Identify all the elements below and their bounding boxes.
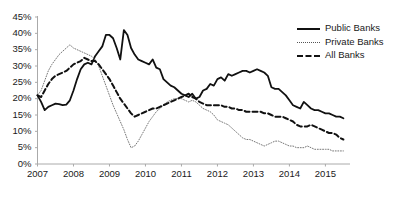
x-axis-tick-label: 2013 [236, 169, 270, 179]
x-axis-tick-label: 2009 [92, 169, 126, 179]
series-line-all-banks [38, 58, 344, 140]
legend-swatch-solid-icon [297, 28, 320, 30]
legend-item-public-banks: Public Banks [297, 22, 415, 36]
legend-label-private-banks: Private Banks [325, 36, 384, 48]
legend-item-private-banks: Private Banks [297, 36, 415, 50]
y-axis-tick-label: 45% [6, 12, 32, 22]
x-axis-tick-label: 2008 [56, 169, 90, 179]
chart-legend: Public Banks Private Banks All Banks [297, 22, 415, 63]
y-axis-tick-label: 15% [6, 110, 32, 120]
y-axis-tick-label: 5% [6, 142, 32, 152]
legend-swatch-dotted-icon [297, 42, 320, 43]
x-axis-tick-label: 2007 [21, 169, 55, 179]
legend-item-all-banks: All Banks [297, 49, 415, 63]
y-axis-tick-label: 25% [6, 77, 32, 87]
y-axis-tick-label: 10% [6, 126, 32, 136]
y-axis-tick-label: 30% [6, 61, 32, 71]
y-axis-tick-label: 40% [6, 28, 32, 38]
legend-label-public-banks: Public Banks [325, 22, 380, 34]
x-axis-tick-label: 2012 [200, 169, 234, 179]
chart-container: 45%40%35%30%25%20%15%10%5%0% 20072008200… [0, 0, 415, 198]
x-axis-tick-label: 2015 [308, 169, 342, 179]
x-axis-tick-label: 2011 [164, 169, 198, 179]
legend-swatch-dashed-icon [297, 55, 320, 57]
x-axis-tick-label: 2014 [272, 169, 306, 179]
y-axis-tick-label: 0% [6, 159, 32, 169]
legend-label-all-banks: All Banks [325, 49, 365, 61]
y-axis-tick-label: 20% [6, 93, 32, 103]
y-axis-tick-label: 35% [6, 44, 32, 54]
x-axis-tick-label: 2010 [128, 169, 162, 179]
